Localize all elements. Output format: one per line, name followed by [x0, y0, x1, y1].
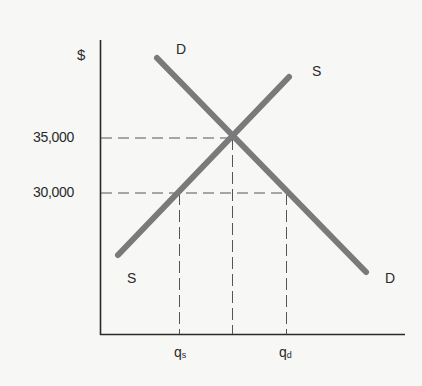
qd-label-main: q	[279, 344, 287, 360]
tick-label-30000: 30,000	[33, 185, 74, 199]
demand-curve	[157, 58, 366, 272]
y-axis-label: $	[77, 47, 85, 62]
tick-label-35000: 35,000	[33, 130, 74, 144]
qs-label: qs	[174, 345, 186, 359]
qd-label: qd	[279, 345, 292, 359]
qd-label-sub: d	[287, 350, 292, 360]
qs-label-sub: s	[182, 350, 187, 360]
demand-label-top: D	[176, 42, 186, 56]
supply-label-bottom: S	[127, 271, 136, 285]
demand-label-bottom: D	[385, 271, 395, 285]
qs-label-main: q	[174, 344, 182, 360]
supply-label-top: S	[312, 64, 321, 78]
